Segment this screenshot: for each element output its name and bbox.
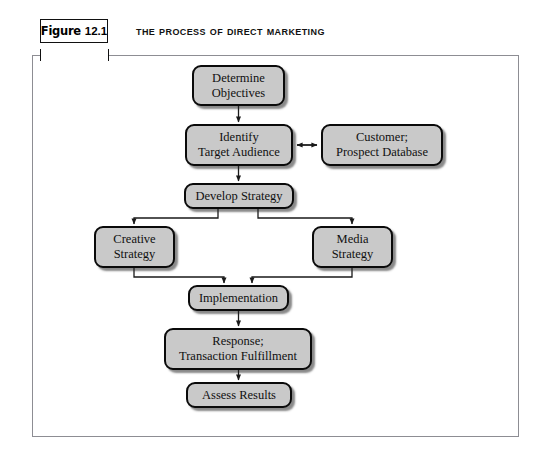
node-label-develop-strategy: Develop Strategy — [189, 189, 288, 204]
figure-title: The Process of Direct Marketing — [136, 24, 325, 38]
figure-header: Figure 12.1 The Process of Direct Market… — [40, 18, 325, 44]
node-label-implementation: Implementation — [193, 291, 284, 306]
node-determine-objectives: Determine Objectives — [192, 65, 285, 106]
node-media-strategy: Media Strategy — [312, 226, 393, 268]
node-label-customer-prospect-database: Customer; Prospect Database — [330, 130, 434, 160]
node-creative-strategy: Creative Strategy — [94, 226, 175, 268]
node-response-transaction-fulfillment: Response; Transaction Fulfillment — [164, 328, 312, 370]
node-implementation: Implementation — [188, 285, 289, 311]
node-customer-prospect-database: Customer; Prospect Database — [321, 124, 443, 166]
figure-label-number: 12.1 — [85, 25, 107, 37]
node-label-media-strategy: Media Strategy — [326, 232, 380, 262]
node-label-creative-strategy: Creative Strategy — [107, 232, 161, 262]
figure-frame-notch-cap — [41, 55, 108, 61]
node-label-assess-results: Assess Results — [196, 388, 282, 403]
figure-label-box: Figure 12.1 — [40, 19, 108, 43]
figure-label-word: Figure — [41, 24, 81, 38]
node-develop-strategy: Develop Strategy — [184, 183, 294, 209]
node-assess-results: Assess Results — [186, 382, 292, 408]
node-label-identify-target-audience: Identify Target Audience — [192, 130, 286, 160]
node-identify-target-audience: Identify Target Audience — [185, 124, 293, 166]
node-label-determine-objectives: Determine Objectives — [206, 71, 271, 101]
node-label-response-transaction-fulfillment: Response; Transaction Fulfillment — [173, 334, 303, 364]
